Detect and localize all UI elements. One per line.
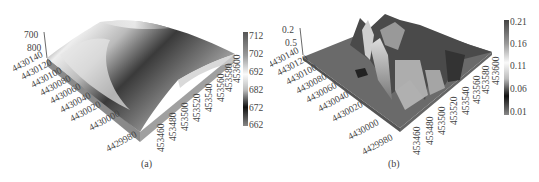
z-tick-b-0: 0.2 [282,25,294,35]
colorbar-tick-a: 712 [249,31,264,41]
caption-b: (b) [388,158,400,169]
colorbar-tick-b: 0.11 [510,61,527,71]
surface-plot-a: 700 800 4430140 4430120 4430100 4430080 … [0,0,270,182]
x-tick-a: 453540 [204,83,214,112]
colorbar-b: 0.21 0.16 0.11 0.06 0.01 [504,17,527,117]
colorbar-tick-a: 662 [249,120,264,130]
x-tick-a: 453500 [180,102,190,131]
colorbar-tick-a: 672 [249,103,264,113]
x-tick-b: 453520 [449,96,459,125]
x-tick-b: 453580 [481,65,491,94]
colorbar-tick-b: 0.01 [510,107,527,117]
surface-plot-b: 0.2 0.5 4430140 4430120 4430100 4430080 … [270,0,539,182]
panel-a: 700 800 4430140 4430120 4430100 4430080 … [0,0,270,182]
y-tick-b: 4429980 [360,132,394,157]
colorbar-tick-b: 0.06 [510,84,527,94]
x-tick-a: 453600 [232,54,242,83]
x-tick-b: 453480 [425,116,435,145]
x-tick-b: 453540 [461,86,471,115]
x-tick-b: 453600 [491,56,501,85]
x-tick-a: 453460 [156,123,166,152]
colorbar-tick-a: 692 [249,67,264,77]
colorbar-tick-a: 682 [249,85,264,95]
x-tick-a: 453520 [192,93,202,122]
colorbar-tick-b: 0.21 [510,17,527,27]
x-tick-b: 453460 [412,126,422,155]
x-tick-a: 453480 [168,112,178,141]
caption-a: (a) [141,158,152,169]
y-tick-a: 4429980 [104,129,138,154]
colorbar-a: 712 702 692 682 672 662 [243,31,264,130]
z-tick-a-0: 700 [24,30,39,40]
y-tick-b: 4430000 [346,117,380,142]
x-tick-b: 453500 [437,106,447,135]
colorbar-tick-b: 0.16 [510,39,527,49]
colorbar-tick-a: 702 [249,49,264,59]
panel-b: 0.2 0.5 4430140 4430120 4430100 4430080 … [270,0,539,182]
